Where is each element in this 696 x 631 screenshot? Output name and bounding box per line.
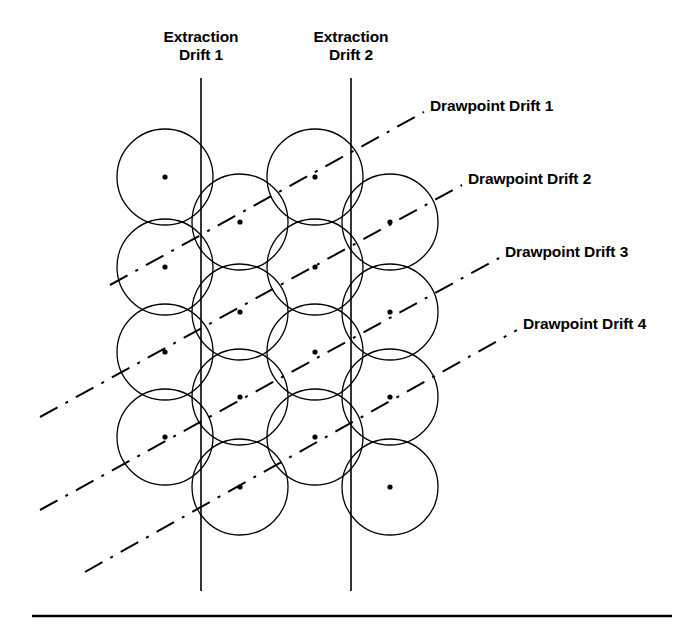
drawpoint-center-dot (162, 349, 167, 354)
drawpoint-center-dot (312, 434, 317, 439)
drawpoint-center-dot (312, 174, 317, 179)
drawpoint-center-dot (162, 434, 167, 439)
extraction-drift-2-label-line2: Drift 2 (281, 46, 421, 64)
drawpoint-center-dot (237, 309, 242, 314)
drawpoint-center-dot (387, 219, 392, 224)
extraction-drift-lines-group (201, 78, 351, 591)
drawpoint-center-dot (162, 174, 167, 179)
drawpoint-center-dot (162, 264, 167, 269)
drawpoint-drift-2-line (40, 185, 462, 417)
drawpoint-drift-1-line (110, 112, 424, 285)
drawpoint-center-dot (387, 394, 392, 399)
drawpoint-center-dot (312, 264, 317, 269)
extraction-drift-1-label-line1: Extraction (131, 28, 271, 46)
extraction-drift-1-label: ExtractionDrift 1 (131, 28, 271, 64)
drawpoint-drift-1-label: Drawpoint Drift 1 (430, 97, 553, 115)
extraction-drift-2-label: ExtractionDrift 2 (281, 28, 421, 64)
draw-circles-group (117, 129, 438, 535)
drawpoint-center-dot (312, 349, 317, 354)
drawpoint-drift-lines-group (40, 112, 517, 572)
drawpoint-drift-4-label: Drawpoint Drift 4 (523, 315, 646, 333)
extraction-drift-2-label-line1: Extraction (281, 28, 421, 46)
extraction-drift-1-label-line2: Drift 1 (131, 46, 271, 64)
drawpoint-drift-3-line (40, 258, 499, 510)
drawpoint-center-dot (237, 394, 242, 399)
drawpoint-center-dot (387, 484, 392, 489)
drawpoint-layout-figure: ExtractionDrift 1ExtractionDrift 2Drawpo… (0, 0, 696, 631)
drawpoint-center-dot (387, 309, 392, 314)
drawpoint-drift-2-label: Drawpoint Drift 2 (468, 170, 591, 188)
drawpoint-center-dot (237, 219, 242, 224)
drawpoint-drift-3-label: Drawpoint Drift 3 (505, 243, 628, 261)
drawpoint-center-dot (237, 484, 242, 489)
